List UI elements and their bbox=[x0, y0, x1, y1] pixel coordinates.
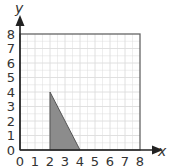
x-tick-label: 3 bbox=[61, 154, 69, 168]
x-tick-label: 8 bbox=[136, 154, 144, 168]
grid-lines bbox=[20, 34, 140, 150]
y-tick-labels: 012345678 bbox=[7, 27, 15, 158]
y-tick-label: 6 bbox=[7, 56, 15, 71]
y-axis-label: y bbox=[14, 0, 24, 16]
x-tick-label: 5 bbox=[91, 154, 99, 168]
x-tick-label: 6 bbox=[106, 154, 114, 168]
y-tick-label: 4 bbox=[7, 85, 15, 100]
y-axis-arrow-icon bbox=[16, 15, 25, 26]
x-tick-label: 0 bbox=[16, 154, 24, 168]
y-tick-label: 7 bbox=[7, 41, 15, 56]
x-tick-labels: 012345678 bbox=[16, 154, 144, 168]
coordinate-plane: 012345678 012345678 x y bbox=[0, 0, 170, 168]
y-tick-label: 3 bbox=[7, 99, 15, 114]
x-tick-label: 2 bbox=[46, 154, 54, 168]
y-tick-label: 0 bbox=[7, 143, 15, 158]
y-tick-label: 2 bbox=[7, 114, 15, 129]
y-tick-label: 8 bbox=[7, 27, 15, 42]
x-tick-label: 4 bbox=[76, 154, 84, 168]
y-tick-label: 1 bbox=[7, 128, 15, 143]
x-axis-label: x bbox=[157, 143, 167, 159]
x-tick-label: 1 bbox=[31, 154, 39, 168]
y-tick-label: 5 bbox=[7, 70, 15, 85]
x-tick-label: 7 bbox=[121, 154, 129, 168]
